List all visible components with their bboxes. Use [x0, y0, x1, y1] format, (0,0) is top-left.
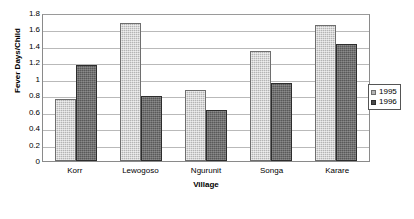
- bar-group: [43, 15, 108, 161]
- y-axis-tick: 0.8: [29, 92, 40, 100]
- legend-label: 1995: [379, 88, 397, 96]
- x-axis-tick: Karare: [304, 166, 370, 175]
- bar-korr-1996: [76, 65, 97, 161]
- legend-swatch-icon: [371, 90, 376, 95]
- plot-area: [42, 14, 370, 162]
- bar-groups: [43, 15, 369, 161]
- bar-chart: Fever Days/Child 1.81.61.41.210.80.60.40…: [0, 0, 414, 219]
- legend-swatch-icon: [371, 100, 376, 105]
- y-axis-tick: 0.6: [29, 109, 40, 117]
- bar-group: [108, 15, 173, 161]
- bar-lewogoso-1995: [120, 23, 141, 161]
- y-axis-tick: 1: [36, 76, 40, 84]
- legend-entry-1996: 1996: [371, 97, 397, 107]
- y-axis-tick: 1.8: [29, 10, 40, 18]
- y-axis-tick: 0: [36, 158, 40, 166]
- chart-legend: 19951996: [368, 84, 401, 110]
- bar-lewogoso-1996: [141, 96, 162, 161]
- x-axis-tick: Lewogoso: [108, 166, 174, 175]
- bar-group: [239, 15, 304, 161]
- bar-songa-1995: [250, 51, 271, 161]
- x-axis-title: Village: [42, 180, 370, 189]
- x-axis-tick: Korr: [42, 166, 108, 175]
- bar-ngurunit-1995: [185, 90, 206, 161]
- y-axis-tick: 1.6: [29, 26, 40, 34]
- y-axis-tick: 0.4: [29, 125, 40, 133]
- bar-karare-1996: [336, 44, 357, 161]
- bar-group: [304, 15, 369, 161]
- bar-songa-1996: [271, 83, 292, 161]
- bar-ngurunit-1996: [206, 110, 227, 161]
- x-axis-tick-labels: KorrLewogosoNgurunitSongaKarare: [42, 166, 370, 175]
- bar-korr-1995: [55, 99, 76, 161]
- y-axis-tick: 1.2: [29, 59, 40, 67]
- x-axis-tick: Ngurunit: [173, 166, 239, 175]
- bar-karare-1995: [315, 25, 336, 161]
- legend-entry-1995: 1995: [371, 87, 397, 97]
- bar-group: [173, 15, 238, 161]
- y-axis-tick: 0.2: [29, 142, 40, 150]
- y-axis-tick-labels: 1.81.61.41.210.80.60.40.20: [14, 14, 40, 162]
- x-axis-tick: Songa: [239, 166, 305, 175]
- y-axis-tick: 1.4: [29, 43, 40, 51]
- legend-label: 1996: [379, 98, 397, 106]
